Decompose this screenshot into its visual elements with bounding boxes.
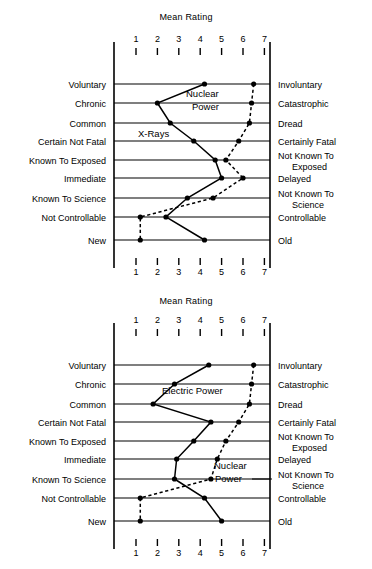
x-tick-label-top: 3 [176, 34, 181, 44]
data-point [208, 419, 213, 424]
data-point [168, 120, 173, 125]
x-tick-label-bottom: 7 [262, 548, 267, 558]
x-tick-label-bottom: 7 [262, 267, 267, 277]
data-point [138, 214, 143, 219]
row-label-right: Not Known To [278, 151, 334, 161]
row-label-right: Catastrophic [278, 99, 329, 109]
row-label-right: Involuntary [278, 361, 323, 371]
data-point [223, 438, 228, 443]
x-tick-label-top: 1 [133, 315, 138, 325]
data-point [151, 401, 156, 406]
row-label-right: Old [278, 517, 292, 527]
x-tick-label-top: 3 [176, 315, 181, 325]
data-point [172, 476, 177, 481]
data-point [191, 438, 196, 443]
x-tick-label-bottom: 4 [198, 267, 203, 277]
x-tick-label-top: 4 [198, 315, 203, 325]
data-point [202, 81, 207, 86]
chart-panel-top: Mean Rating 11223344556677VoluntaryInvol… [0, 0, 372, 284]
row-label-right: Controllable [278, 213, 326, 223]
data-point [251, 81, 256, 86]
row-label-right: Exposed [292, 443, 327, 453]
row-label-left: Known To Exposed [29, 156, 106, 166]
x-tick-label-bottom: 2 [155, 548, 160, 558]
series-annotation: Power [215, 473, 242, 484]
data-point [251, 362, 256, 367]
row-label-right: Dread [278, 119, 303, 129]
chart-svg-bottom: 11223344556677VoluntaryInvoluntaryChroni… [0, 284, 372, 569]
x-tick-label-top: 4 [198, 34, 203, 44]
data-point [219, 518, 224, 523]
row-label-right: Not Known To [278, 470, 334, 480]
data-point [202, 495, 207, 500]
row-label-left: Common [69, 400, 106, 410]
row-label-right: Science [292, 481, 324, 491]
x-tick-label-top: 6 [240, 34, 245, 44]
data-point [174, 456, 179, 461]
row-label-left: Immediate [64, 174, 106, 184]
x-tick-label-bottom: 6 [240, 548, 245, 558]
row-label-right: Controllable [278, 494, 326, 504]
data-point [163, 214, 168, 219]
data-point [236, 419, 241, 424]
row-label-left: Certain Not Fatal [38, 137, 106, 147]
data-point [219, 175, 224, 180]
x-tick-label-bottom: 2 [155, 267, 160, 277]
data-point [247, 401, 252, 406]
row-label-left: Immediate [64, 455, 106, 465]
x-tick-label-bottom: 1 [133, 548, 138, 558]
row-label-left: Known To Science [32, 475, 106, 485]
data-point [202, 237, 207, 242]
row-label-right: Delayed [278, 174, 311, 184]
series-annotation: Power [192, 101, 219, 112]
data-point [185, 195, 190, 200]
x-tick-label-top: 7 [262, 34, 267, 44]
data-point [213, 157, 218, 162]
data-point [138, 237, 143, 242]
data-point [247, 120, 252, 125]
row-label-left: Chronic [75, 380, 107, 390]
row-label-right: Catastrophic [278, 380, 329, 390]
data-point [249, 100, 254, 105]
row-label-right: Not Known To [278, 432, 334, 442]
x-tick-label-bottom: 1 [133, 267, 138, 277]
row-label-left: Chronic [75, 99, 107, 109]
x-tick-label-top: 5 [219, 34, 224, 44]
row-label-left: Not Controllable [41, 494, 106, 504]
data-point [138, 495, 143, 500]
series-annotation: Nuclear [214, 460, 247, 471]
row-label-left: Certain Not Fatal [38, 418, 106, 428]
data-point [236, 138, 241, 143]
row-label-right: Certainly Fatal [278, 137, 336, 147]
row-label-right: Involuntary [278, 80, 323, 90]
x-tick-label-top: 2 [155, 34, 160, 44]
chart-panel-bottom: Mean Rating 11223344556677VoluntaryInvol… [0, 284, 372, 569]
figure-page: Mean Rating 11223344556677VoluntaryInvol… [0, 0, 372, 569]
data-point [206, 362, 211, 367]
data-point [210, 195, 215, 200]
row-label-left: New [88, 517, 107, 527]
x-tick-label-top: 1 [133, 34, 138, 44]
data-point [138, 518, 143, 523]
series-annotation: Nuclear [186, 88, 219, 99]
data-point [240, 175, 245, 180]
row-label-right: Old [278, 236, 292, 246]
row-label-right: Exposed [292, 162, 327, 172]
x-tick-label-bottom: 3 [176, 548, 181, 558]
row-label-right: Delayed [278, 455, 311, 465]
x-tick-label-bottom: 5 [219, 548, 224, 558]
row-label-left: Known To Exposed [29, 437, 106, 447]
chart-svg-top: 11223344556677VoluntaryInvoluntaryChroni… [0, 0, 372, 284]
row-label-left: Voluntary [68, 361, 106, 371]
row-label-left: Voluntary [68, 80, 106, 90]
x-tick-label-top: 2 [155, 315, 160, 325]
data-point [249, 381, 254, 386]
series-annotation: Electric Power [162, 385, 223, 396]
x-tick-label-bottom: 6 [240, 267, 245, 277]
row-label-left: New [88, 236, 107, 246]
data-point [208, 476, 213, 481]
series-annotation: X-Rays [138, 128, 169, 139]
data-point [191, 138, 196, 143]
x-tick-label-bottom: 3 [176, 267, 181, 277]
x-tick-label-top: 5 [219, 315, 224, 325]
